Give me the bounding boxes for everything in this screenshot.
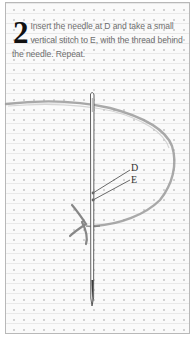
stitch-knot <box>70 205 87 244</box>
point-label-e: E <box>131 174 137 185</box>
stitch-diagram: D E <box>0 0 193 337</box>
point-d-marker <box>92 192 95 195</box>
point-label-d: D <box>131 162 138 173</box>
thread-loop-shadow <box>8 104 169 148</box>
point-e-marker <box>92 199 95 202</box>
